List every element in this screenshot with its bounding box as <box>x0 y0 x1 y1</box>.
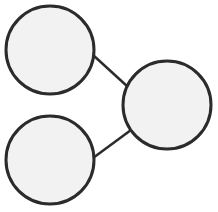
node-bottom-left <box>6 116 94 204</box>
node-link-diagram <box>0 0 218 212</box>
node-right <box>123 61 211 149</box>
node-top-left <box>6 6 94 94</box>
